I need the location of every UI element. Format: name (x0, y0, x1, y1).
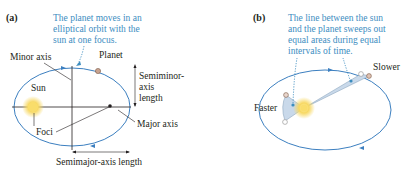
caption-pointer-slower (343, 58, 350, 80)
semiminor-label-line-3: length (139, 93, 163, 103)
sun-label: Sun (31, 83, 46, 93)
foci-leader-focus (56, 107, 109, 132)
panel-b-caption-line-3: equal areas during equal (288, 35, 381, 45)
panel-a: (a) The planet moves in an elliptical or… (6, 12, 184, 167)
sun-icon (28, 102, 38, 112)
panel-a-label: (a) (6, 12, 18, 24)
sun-icon (301, 105, 308, 112)
caption-pointer (78, 46, 84, 64)
dimension-arrow-icon (72, 151, 76, 154)
minor-axis-label: Minor axis (10, 52, 52, 62)
pointer-dot-icon (291, 103, 294, 106)
semiminor-label-line-2: axis (139, 82, 155, 92)
dimension-arrow-icon (134, 103, 137, 107)
semimajor-label: Semimajor-axis length (56, 157, 142, 167)
caption-pointer-faster (293, 58, 297, 104)
planet-position-icon (367, 74, 372, 79)
planet-label: Planet (99, 50, 123, 60)
panel-a-caption-line-1: The planet moves in an (53, 13, 142, 23)
panel-b-caption-line-1: The line between the sun (288, 13, 383, 23)
semiminor-label-line-1: Semiminor- (139, 71, 184, 81)
planet-position-icon (284, 93, 289, 98)
planet-position-icon (359, 72, 364, 77)
orbit-direction-arrow-icon (359, 146, 364, 150)
panel-b-label: (b) (253, 12, 265, 24)
orbit-ellipse (259, 70, 391, 150)
pointer-arrowhead-icon (76, 61, 81, 66)
faster-label: Faster (254, 103, 278, 113)
panel-b-caption-line-2: and the planet sweeps out (288, 24, 386, 34)
orbit-direction-arrow-icon (90, 144, 95, 148)
planet-icon (95, 68, 100, 73)
planet-position-icon (283, 120, 288, 125)
panel-b: (b) The line between the sun and the pla… (253, 12, 401, 150)
slower-label: Slower (373, 62, 401, 72)
major-axis-label: Major axis (137, 119, 178, 129)
panel-b-caption-line-4: intervals of time. (288, 46, 353, 56)
dimension-arrow-icon (126, 151, 130, 154)
orbit-direction-arrow-icon (328, 68, 333, 72)
foci-label: Foci (36, 127, 53, 137)
panel-a-caption-line-2: elliptical orbit with the (53, 24, 140, 34)
dimension-arrow-icon (134, 64, 137, 68)
panel-a-caption-line-3: sun at one focus. (53, 35, 117, 45)
kepler-diagram: (a) The planet moves in an elliptical or… (0, 0, 402, 176)
pointer-dot-icon (349, 79, 352, 82)
swept-area-slower (304, 74, 369, 108)
orbit-direction-arrow-icon (61, 66, 66, 70)
